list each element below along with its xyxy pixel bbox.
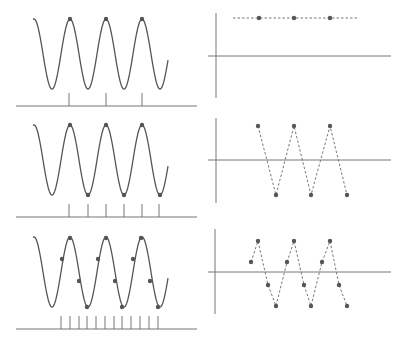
row-one-sample-per-period: [16, 13, 391, 106]
sample-point: [104, 123, 108, 127]
sample-point: [285, 260, 289, 264]
sample-point: [345, 193, 349, 197]
sample-point: [345, 304, 349, 308]
sample-point: [302, 283, 306, 287]
sampling-diagram: [0, 0, 412, 343]
sample-point: [249, 260, 253, 264]
continuous-signal-panel: [16, 236, 197, 329]
sample-point: [139, 236, 143, 240]
sample-point: [86, 193, 90, 197]
sample-point: [77, 279, 81, 283]
sample-point: [113, 279, 117, 283]
sample-point: [68, 236, 72, 240]
sample-point: [60, 257, 64, 261]
continuous-signal-panel: [16, 123, 197, 217]
sample-point: [156, 305, 160, 309]
sample-point: [292, 124, 296, 128]
sample-point: [85, 305, 89, 309]
sample-point: [292, 239, 296, 243]
sample-point: [328, 239, 332, 243]
sample-point: [68, 17, 72, 21]
sample-point: [328, 16, 332, 20]
sample-point: [320, 260, 324, 264]
sample-point: [274, 304, 278, 308]
sample-point: [256, 124, 260, 128]
sampled-signal-panel: [208, 229, 391, 314]
sample-point: [120, 305, 124, 309]
sample-point: [140, 123, 144, 127]
sample-point: [266, 283, 270, 287]
sample-point: [274, 193, 278, 197]
sine-wave-curve: [33, 19, 168, 89]
sample-point: [257, 16, 261, 20]
sample-point: [328, 124, 332, 128]
sample-point: [104, 236, 108, 240]
sample-point: [96, 257, 100, 261]
reconstructed-dashed-line: [251, 241, 347, 306]
row-two-samples-per-period: [16, 118, 391, 217]
sample-point: [256, 239, 260, 243]
sample-point: [148, 279, 152, 283]
sampled-signal-panel: [208, 118, 391, 203]
sample-point: [131, 257, 135, 261]
sample-point: [140, 17, 144, 21]
sample-point: [292, 16, 296, 20]
continuous-signal-panel: [16, 17, 197, 106]
sample-point: [122, 193, 126, 197]
sample-point: [104, 17, 108, 21]
sample-point: [337, 283, 341, 287]
sine-wave-curve: [33, 237, 168, 307]
sine-wave-curve: [33, 125, 168, 195]
row-four-samples-per-period: [16, 229, 391, 329]
sample-point: [68, 123, 72, 127]
sampled-signal-panel: [208, 13, 391, 98]
sample-point: [309, 193, 313, 197]
sample-point: [309, 304, 313, 308]
sample-point: [158, 193, 162, 197]
